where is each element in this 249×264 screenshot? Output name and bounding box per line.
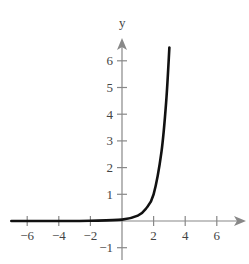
y-axis-label: y <box>119 15 126 30</box>
y-tick-label: 1 <box>107 187 114 202</box>
chart: y −6−4−2246 −1123456 <box>0 0 249 264</box>
x-tick-label: −2 <box>83 228 97 243</box>
x-tick-label: 6 <box>214 228 221 243</box>
y-tick-label: 4 <box>107 107 114 122</box>
y-tick-label: 6 <box>107 53 114 68</box>
x-tick-label: 2 <box>150 228 157 243</box>
y-tick-label: −1 <box>99 240 113 255</box>
x-tick-label: 4 <box>182 228 189 243</box>
y-tick-label: 3 <box>107 133 114 148</box>
y-ticks: −1123456 <box>99 53 127 255</box>
y-tick-label: 2 <box>107 160 114 175</box>
x-tick-label: −6 <box>20 228 34 243</box>
data-curve <box>11 47 169 221</box>
x-tick-label: −4 <box>52 228 66 243</box>
y-tick-label: 5 <box>107 80 114 95</box>
